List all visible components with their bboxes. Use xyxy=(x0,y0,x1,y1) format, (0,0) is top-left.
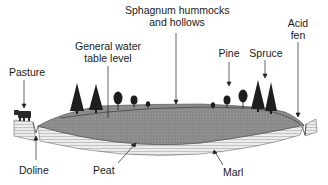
label-acid-fen: Acid fen xyxy=(283,17,313,41)
label-sphagnum-hummocks: Sphagnum hummocks and hollows xyxy=(125,4,229,28)
spruce-tree-icon xyxy=(70,83,84,114)
label-pasture: Pasture xyxy=(9,66,45,78)
label-spruce: Spruce xyxy=(249,47,283,59)
marl-layer-right xyxy=(305,119,317,136)
label-peat: Peat xyxy=(93,164,115,176)
marl-layer-left xyxy=(14,120,36,141)
label-water-line2: table level xyxy=(72,52,144,64)
label-general-water-table: General water table level xyxy=(72,40,144,64)
label-water-line1: General water xyxy=(72,40,144,52)
spruce-tree-icon xyxy=(89,84,103,113)
cow-icon xyxy=(14,110,31,121)
label-doline: Doline xyxy=(19,164,49,176)
label-acid-line1: Acid xyxy=(283,17,313,29)
label-sphagnum-line1: Sphagnum hummocks xyxy=(125,4,229,16)
label-pine: Pine xyxy=(216,47,242,59)
label-marl: Marl xyxy=(223,166,243,178)
spruce-tree-icon xyxy=(251,80,265,112)
label-sphagnum-line2: and hollows xyxy=(125,16,229,28)
label-acid-line2: fen xyxy=(283,29,313,41)
spruce-tree-icon xyxy=(265,82,277,114)
